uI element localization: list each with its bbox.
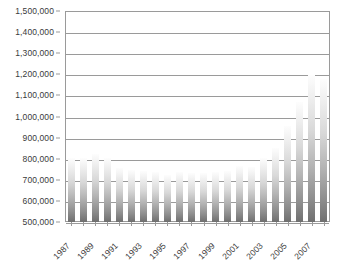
y-axis-tick-mark <box>56 179 60 180</box>
bar <box>80 158 87 222</box>
x-axis-tick-label: 1993 <box>123 241 144 262</box>
bar <box>284 126 291 222</box>
y-axis-tick-mark <box>56 53 60 54</box>
bar <box>92 154 99 222</box>
bar <box>248 167 255 222</box>
bar <box>68 158 75 222</box>
bars-layer <box>65 11 330 222</box>
y-axis-tick-label: 1,200,000 <box>15 69 54 79</box>
y-axis-tick-label: 600,000 <box>23 196 54 206</box>
x-axis-tick-label: 2003 <box>244 241 265 262</box>
bar <box>140 171 147 222</box>
y-axis-tick-mark <box>56 32 60 33</box>
bar <box>116 168 123 222</box>
bar <box>236 166 243 222</box>
bar <box>128 170 135 222</box>
bar <box>104 158 111 222</box>
bar <box>164 175 171 222</box>
y-axis-tick-label: 1,500,000 <box>15 6 54 16</box>
y-axis-tick-label: 1,000,000 <box>15 112 54 122</box>
y-axis-tick-mark <box>56 116 60 117</box>
x-axis-tick-label: 2001 <box>220 241 241 262</box>
x-axis-tick-label: 2007 <box>292 241 313 262</box>
x-axis-tick-label: 1989 <box>75 241 96 262</box>
y-axis-tick-mark <box>56 11 60 12</box>
x-axis-tick-label: 2005 <box>268 241 289 262</box>
y-axis-tick-label: 1,400,000 <box>15 27 54 37</box>
bar <box>212 172 219 222</box>
x-axis-tick-label: 1987 <box>51 241 72 262</box>
bar <box>260 158 267 222</box>
bar <box>308 75 315 222</box>
bar <box>320 79 327 222</box>
bar <box>176 172 183 222</box>
bar <box>272 148 279 222</box>
y-axis-tick-label: 800,000 <box>23 154 54 164</box>
x-axis-tick-label: 1995 <box>148 241 169 262</box>
y-axis-tick-mark <box>56 74 60 75</box>
bar-chart: 1,500,0001,400,0001,300,0001,200,0001,10… <box>0 0 341 265</box>
bar <box>224 171 231 222</box>
y-axis-tick-mark <box>56 137 60 138</box>
y-axis-tick-label: 1,100,000 <box>15 90 54 100</box>
x-axis-tick-label: 1991 <box>99 241 120 262</box>
bar <box>296 102 303 222</box>
x-axis-tick-label: 1997 <box>172 241 193 262</box>
y-axis-tick-label: 1,300,000 <box>15 48 54 58</box>
bar <box>152 172 159 222</box>
bar <box>188 173 195 222</box>
x-axis-tick-label: 1999 <box>196 241 217 262</box>
y-axis-tick-mark <box>56 200 60 201</box>
y-axis-tick-label: 900,000 <box>23 133 54 143</box>
y-axis-tick-mark <box>56 158 60 159</box>
y-axis-tick-label: 700,000 <box>23 175 54 185</box>
y-axis-tick-mark <box>56 95 60 96</box>
bar <box>200 173 207 222</box>
x-axis: 1987198919911993199519971999200120032005… <box>0 222 341 265</box>
